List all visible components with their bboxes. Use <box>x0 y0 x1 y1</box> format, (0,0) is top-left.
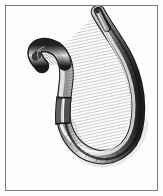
earthworm-engraving <box>6 6 157 190</box>
clitellum-upper-edge <box>57 97 71 98</box>
worm-body <box>6 6 157 190</box>
clitellum-highlight <box>62 99 63 123</box>
earthworm-figure <box>6 6 157 190</box>
illustration-plate <box>0 0 163 196</box>
clitellum <box>56 97 72 124</box>
tail-tip <box>96 9 100 13</box>
clitellum-lower-edge <box>56 123 71 124</box>
